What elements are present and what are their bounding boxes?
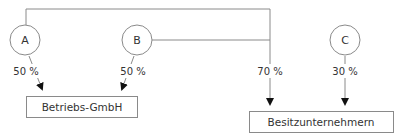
share-label-ab-besitz: 70 % xyxy=(257,66,282,77)
shareholder-a: A xyxy=(10,25,40,55)
share-label-b-betriebs: 50 % xyxy=(120,66,145,77)
company-besitz-label: Besitzunternehmern xyxy=(268,116,375,128)
shareholder-c-label: C xyxy=(341,34,349,47)
share-label-c-besitz: 30 % xyxy=(332,66,357,77)
company-betriebs-label: Betriebs-GmbH xyxy=(42,101,123,113)
shareholder-c: C xyxy=(330,25,360,55)
share-label-a-betriebs: 50 % xyxy=(13,66,38,77)
shareholder-b: B xyxy=(122,25,152,55)
ownership-diagram: A B C 50 % 50 % 70 % 30 % Betriebs-GmbH … xyxy=(0,0,405,138)
shareholder-b-label: B xyxy=(133,34,141,47)
connectors xyxy=(26,9,345,104)
company-betriebs-gmbh: Betriebs-GmbH xyxy=(27,97,138,118)
shareholder-a-label: A xyxy=(21,34,29,47)
connector-a-to-joint xyxy=(26,9,270,104)
company-besitzunternehmern: Besitzunternehmern xyxy=(250,112,394,133)
